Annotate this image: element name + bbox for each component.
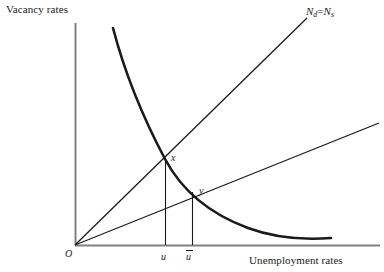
curve-label-n-s: N (324, 5, 331, 17)
y-axis-label: Vacancy rates (6, 4, 68, 15)
flat-ray-line (75, 123, 379, 245)
origin-label: O (65, 249, 72, 259)
equilibrium-curve-label: Nd=Ns (306, 6, 334, 19)
plot-canvas (0, 0, 384, 272)
curve-label-subscript-s: s (331, 10, 334, 19)
x-axis-label: Unemployment rates (249, 255, 343, 266)
x-tick-label-u-bar-text: u (186, 251, 191, 262)
x-tick-label-u: u (161, 252, 166, 262)
x-tick-label-u-bar: u (186, 250, 193, 262)
beveridge-curve (113, 28, 331, 239)
steep-ray-line (75, 18, 307, 245)
beveridge-curve-figure: Vacancy rates Unemployment rates Nd=Ns O… (0, 0, 384, 272)
point-label-y: y (199, 186, 203, 196)
point-label-x: x (171, 153, 175, 163)
